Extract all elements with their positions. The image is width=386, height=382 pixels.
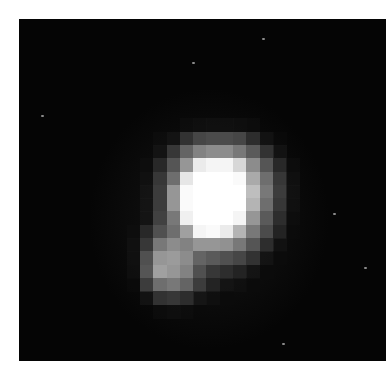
pixel-cell: [153, 265, 167, 279]
pixel-cell: [153, 132, 167, 146]
pixel-cell: [180, 185, 194, 199]
pixel-cell: [206, 291, 220, 305]
pixel-cell: [140, 265, 154, 279]
pixel-cell: [206, 118, 220, 132]
pixel-cell: [180, 145, 194, 159]
pixel-cell: [140, 225, 154, 239]
pixel-cell: [167, 145, 181, 159]
pixel-cell: [180, 158, 194, 172]
pixel-cell: [140, 158, 154, 172]
pixel-cell: [193, 305, 207, 319]
noise-speck: [41, 115, 44, 117]
pixel-cell: [193, 185, 207, 199]
pixel-cell: [140, 291, 154, 305]
pixel-cell: [153, 158, 167, 172]
pixel-cell: [180, 265, 194, 279]
pixel-cell: [260, 211, 274, 225]
pixel-cell: [286, 172, 300, 186]
pixel-cell: [153, 225, 167, 239]
pixel-cell: [220, 291, 234, 305]
pixel-cell: [167, 211, 181, 225]
pixel-cell: [220, 118, 234, 132]
pixel-cell: [153, 198, 167, 212]
pixel-cell: [167, 265, 181, 279]
pixel-cell: [153, 291, 167, 305]
pixel-cell: [167, 251, 181, 265]
pixel-cell: [180, 225, 194, 239]
noise-speck: [333, 213, 336, 215]
pixel-cell: [246, 172, 260, 186]
pixel-cell: [260, 225, 274, 239]
pixel-cell: [260, 238, 274, 252]
pixel-cell: [233, 211, 247, 225]
pixel-cell: [167, 172, 181, 186]
pixel-cell: [220, 185, 234, 199]
pixel-cell: [220, 145, 234, 159]
pixel-cell: [260, 265, 274, 279]
pixel-cell: [220, 265, 234, 279]
image-frame: [19, 19, 386, 361]
pixel-cell: [246, 238, 260, 252]
pixel-cell: [140, 251, 154, 265]
pixel-cell: [246, 132, 260, 146]
pixel-cell: [193, 278, 207, 292]
pixel-cell: [127, 225, 141, 239]
pixel-cell: [127, 265, 141, 279]
pixel-cell: [273, 132, 287, 146]
pixel-cell: [286, 158, 300, 172]
pixel-cell: [180, 172, 194, 186]
pixel-cell: [220, 251, 234, 265]
pixel-cell: [206, 238, 220, 252]
pixel-cell: [127, 238, 141, 252]
pixel-cell: [180, 118, 194, 132]
pixel-cell: [220, 278, 234, 292]
pixel-cell: [206, 145, 220, 159]
pixel-cell: [167, 291, 181, 305]
pixel-cell: [220, 172, 234, 186]
pixel-cell: [140, 238, 154, 252]
pixel-cell: [233, 225, 247, 239]
pixel-cell: [193, 225, 207, 239]
pixel-cell: [233, 145, 247, 159]
pixel-cell: [206, 185, 220, 199]
pixel-cell: [233, 238, 247, 252]
pixel-cell: [246, 118, 260, 132]
pixel-cell: [246, 265, 260, 279]
pixel-cell: [153, 238, 167, 252]
pixel-cell: [180, 291, 194, 305]
pixel-cell: [246, 251, 260, 265]
pixel-cell: [220, 225, 234, 239]
pixel-cell: [180, 211, 194, 225]
pixel-cell: [273, 238, 287, 252]
pixel-cell: [193, 291, 207, 305]
pixel-cell: [153, 251, 167, 265]
pixel-cell: [140, 172, 154, 186]
noise-speck: [192, 62, 195, 64]
pixel-cell: [286, 211, 300, 225]
pixel-cell: [220, 211, 234, 225]
pixel-cell: [273, 251, 287, 265]
pixel-cell: [206, 225, 220, 239]
pixel-cell: [180, 198, 194, 212]
pixel-cell: [260, 132, 274, 146]
pixel-cell: [153, 211, 167, 225]
pixel-cell: [140, 211, 154, 225]
pixel-cell: [167, 238, 181, 252]
pixel-cell: [286, 198, 300, 212]
pixel-cell: [233, 172, 247, 186]
pixel-cell: [233, 132, 247, 146]
pixel-cell: [140, 278, 154, 292]
pixel-cell: [273, 145, 287, 159]
pixel-cell: [206, 211, 220, 225]
pixel-cell: [167, 225, 181, 239]
pixel-cell: [273, 225, 287, 239]
pixel-cell: [153, 145, 167, 159]
pixel-cell: [167, 278, 181, 292]
pixel-cell: [206, 132, 220, 146]
pixel-cell: [233, 198, 247, 212]
pixel-cell: [193, 198, 207, 212]
noise-speck: [262, 38, 265, 40]
pixel-cell: [193, 158, 207, 172]
pixel-cell: [193, 145, 207, 159]
pixel-cell: [206, 198, 220, 212]
